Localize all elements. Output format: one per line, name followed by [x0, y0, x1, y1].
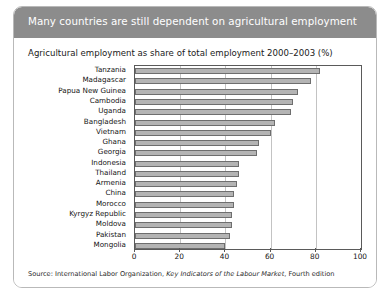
category-label: Madagascar [82, 76, 126, 84]
source-suffix: , Fourth edition [284, 270, 334, 278]
bar [135, 150, 257, 156]
tick-label: 0 [132, 252, 137, 261]
chart-body: Agricultural employment as share of tota… [14, 38, 376, 288]
bar [135, 68, 320, 74]
tick-label: 40 [220, 252, 229, 261]
figure-subtitle: Agricultural employment as share of tota… [28, 48, 333, 58]
tick-label: 80 [310, 252, 319, 261]
category-label: Thailand [95, 169, 126, 177]
title-banner: Many countries are still dependent on ag… [14, 7, 376, 38]
category-label: Armenia [96, 179, 126, 187]
plot-region: TanzaniaMadagascarPapua New GuineaCambod… [28, 65, 364, 250]
category-label: Indonesia [91, 159, 126, 167]
bar [135, 181, 237, 187]
category-label: China [105, 189, 126, 197]
bar [135, 233, 230, 239]
source-title: Key Indicators of the Labour Market [166, 270, 284, 278]
bar [135, 99, 293, 105]
bar [135, 161, 239, 167]
source-note: Source: International Labor Organization… [28, 270, 335, 278]
category-label: Kyrgyz Republic [69, 210, 126, 218]
bar [135, 140, 259, 146]
category-label: Morocco [96, 200, 126, 208]
gridline [316, 66, 317, 249]
category-label: Ghana [103, 138, 127, 146]
category-axis: TanzaniaMadagascarPapua New GuineaCambod… [28, 65, 130, 250]
bar [135, 109, 291, 115]
bar [135, 222, 232, 228]
plot-area [134, 65, 362, 250]
tick-label: 20 [174, 252, 183, 261]
value-axis: 020406080100 [28, 252, 364, 266]
category-label: Bangladesh [84, 118, 126, 126]
category-label: Papua New Guinea [58, 87, 126, 95]
bar [135, 243, 225, 249]
tick-label: 100 [353, 252, 367, 261]
figure-card: Many countries are still dependent on ag… [13, 6, 377, 288]
category-label: Tanzania [95, 66, 126, 74]
category-label: Moldova [96, 220, 126, 228]
bar [135, 78, 311, 84]
figure-title: Many countries are still dependent on ag… [28, 15, 357, 27]
bar [135, 191, 234, 197]
bar [135, 120, 275, 126]
category-label: Georgia [98, 148, 126, 156]
category-label: Cambodia [90, 97, 126, 105]
category-label: Vietnam [96, 128, 126, 136]
bar [135, 130, 271, 136]
bar [135, 212, 232, 218]
category-label: Mongolia [93, 241, 126, 249]
source-prefix: Source: International Labor Organization… [28, 270, 166, 278]
bar [135, 171, 239, 177]
bar [135, 89, 298, 95]
category-label: Uganda [98, 107, 126, 115]
category-label: Pakistan [96, 231, 126, 239]
tick-label: 60 [265, 252, 274, 261]
bar [135, 202, 234, 208]
